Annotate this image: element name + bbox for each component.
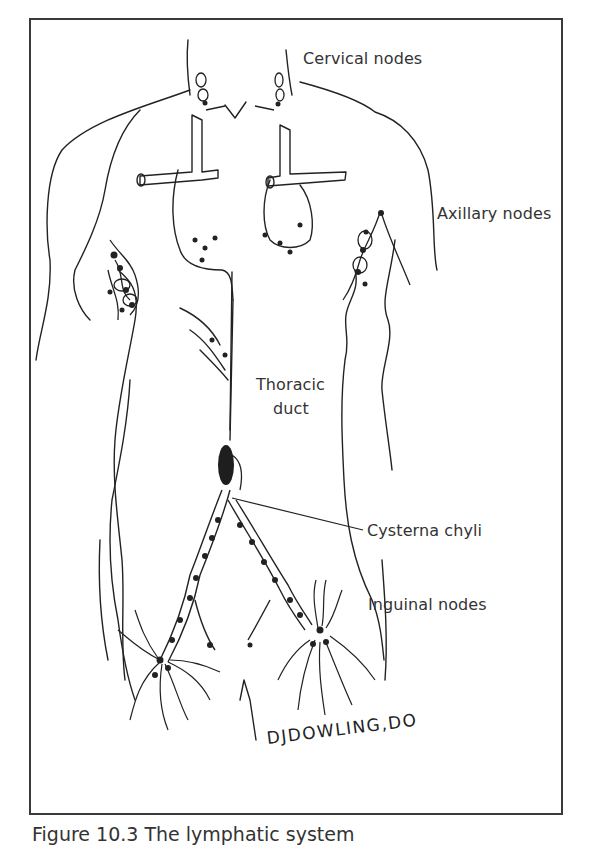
crotch: [240, 680, 256, 740]
neck-right: [286, 50, 292, 95]
left-subclavian-vein: [140, 115, 218, 185]
label-thoracic-duct-line1: Thoracic: [256, 376, 325, 394]
figure-caption: Figure 10.3 The lymphatic system: [32, 823, 354, 845]
label-axillary-nodes: Axillary nodes: [437, 205, 551, 223]
neck-notch: [225, 102, 246, 118]
left-inner-arm: [74, 110, 140, 320]
label-thoracic-duct-line2: duct: [273, 400, 309, 418]
label-inguinal-nodes: Inguinal nodes: [368, 596, 487, 614]
iliac-lymph-chains: [160, 490, 312, 662]
neck-left: [187, 40, 190, 95]
right-shoulder-outline: [300, 82, 437, 270]
cervical-nodes: [196, 73, 284, 110]
cysterna-chyli-shape: [218, 445, 234, 485]
right-torso: [382, 240, 395, 470]
label-cervical-nodes: Cervical nodes: [303, 50, 422, 68]
left-shoulder-outline: [36, 90, 190, 360]
label-cysterna-chyli: Cysterna chyli: [367, 522, 482, 540]
right-subclavian-vein: [268, 125, 346, 186]
left-hip: [110, 380, 135, 700]
right-leg-outline: [382, 560, 386, 680]
right-chest: [264, 180, 312, 248]
right-axillary-nodes: [343, 212, 410, 300]
left-leg-outline: [99, 540, 108, 660]
left-chest: [173, 170, 233, 300]
